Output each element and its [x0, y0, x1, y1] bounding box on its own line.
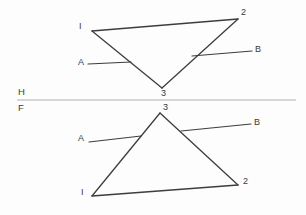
front-view-group: I 2 3 A B	[78, 102, 260, 197]
top-view-label-point-1: I	[79, 21, 82, 31]
front-view-edge-2-3	[160, 113, 238, 185]
top-view-label-line-a: A	[78, 57, 84, 67]
top-view-label-point-3: 3	[161, 88, 166, 98]
front-view-triangle	[92, 113, 238, 196]
front-view-label-line-b: B	[254, 117, 260, 127]
fold-label-h: H	[18, 86, 25, 97]
front-view-edge-1-2	[92, 185, 238, 196]
front-view-edge-3-1	[92, 113, 160, 196]
technical-drawing-canvas: I 2 3 A B H F I	[0, 0, 306, 215]
front-view-rays	[89, 124, 251, 142]
front-view-label-point-3: 3	[163, 102, 168, 112]
front-view-line-b	[181, 124, 251, 131]
top-view-label-point-2: 2	[241, 7, 246, 17]
top-view-edge-1-2	[92, 19, 238, 31]
top-view-rays	[88, 51, 252, 64]
front-view-label-point-1: I	[81, 187, 84, 197]
front-view-line-a	[89, 136, 141, 142]
top-view-edge-3-1	[92, 31, 162, 88]
front-view-label-point-2: 2	[243, 176, 248, 186]
front-view-labels: I 2 3 A B	[78, 102, 260, 197]
top-view-label-line-b: B	[255, 44, 261, 54]
fold-label-f: F	[18, 102, 24, 113]
top-view-line-a	[88, 62, 131, 64]
front-view-label-line-a: A	[78, 133, 84, 143]
top-view-group: I 2 3 A B	[78, 7, 261, 98]
fold-line-group: H F	[17, 86, 296, 113]
projection-figure: I 2 3 A B H F I	[0, 0, 306, 215]
